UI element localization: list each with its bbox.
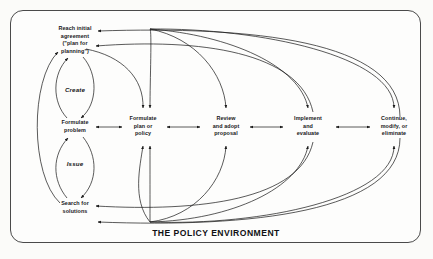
- arc-top-sweep-to-review: [150, 29, 226, 108]
- arc-search-to-agreement-outer: [37, 52, 60, 203]
- arc-top-sweep-to-implement: [150, 29, 308, 108]
- arc-top-sweep-to-continue: [150, 29, 394, 108]
- cycle-label-issue: Issue: [67, 160, 83, 167]
- node-implement-and-evaluate[interactable]: Implement and evaluate: [294, 115, 322, 138]
- figure-canvas: Reach initial agreement ("plan for plann…: [0, 0, 433, 259]
- arc-implement-to-search-return: [96, 142, 313, 207]
- arc-bottom-sweep-to-plan-policy-2: [139, 146, 150, 222]
- node-continue-modify-or-eliminate[interactable]: Continue, modify, or eliminate: [381, 115, 408, 138]
- arc-search-to-problem: [56, 138, 68, 198]
- node-review-and-adopt-proposal[interactable]: Review and adopt proposal: [213, 115, 240, 138]
- arc-bottom-sweep-to-continue: [150, 146, 394, 222]
- arc-top-sweep-to-plan-policy-2: [150, 29, 151, 108]
- arc-problem-to-search: [81, 137, 94, 198]
- arc-agreement-to-plan-policy: [86, 49, 143, 108]
- node-formulate-problem[interactable]: Formulate problem: [61, 119, 88, 134]
- node-search-for-solutions[interactable]: Search for solutions: [61, 200, 89, 215]
- cycle-label-create: Create: [65, 86, 85, 93]
- node-reach-initial-agreement[interactable]: Reach initial agreement ("plan for plann…: [58, 25, 91, 56]
- arc-bottom-sweep-to-review: [150, 146, 226, 222]
- figure-caption: THE POLICY ENVIRONMENT: [152, 228, 280, 238]
- node-formulate-plan-or-policy[interactable]: Formulate plan or policy: [129, 115, 156, 138]
- arc-implement-to-agreement-return: [96, 44, 313, 112]
- arc-bottom-sweep-to-implement: [150, 146, 308, 222]
